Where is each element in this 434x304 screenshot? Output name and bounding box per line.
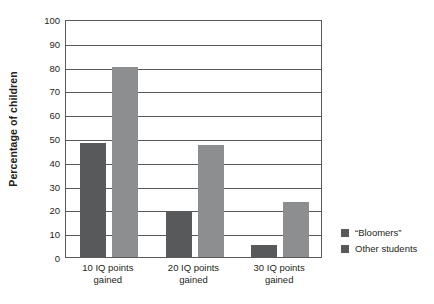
bar <box>80 143 106 257</box>
y-axis-tick-label: 20 <box>25 205 65 216</box>
bar <box>166 212 192 257</box>
y-axis-tick-label: 0 <box>25 253 65 264</box>
x-axis-tick-label: 10 IQ points gained <box>65 262 151 285</box>
legend-item-label: Other students <box>355 243 417 254</box>
y-axis-tick-label: 90 <box>25 38 65 49</box>
bar <box>198 145 224 257</box>
y-axis-tick-label: 30 <box>25 181 65 192</box>
y-axis-title-label: Percentage of children <box>7 71 19 186</box>
bar <box>283 202 309 257</box>
x-axis-tick-label: 20 IQ points gained <box>151 262 237 285</box>
bar-chart-figure: Percentage of children 01020304050607080… <box>0 0 434 304</box>
y-axis-tick-label: 100 <box>25 15 65 26</box>
legend-item-label: “Bloomers” <box>355 227 401 238</box>
gridline <box>66 92 321 93</box>
y-axis-tick-label: 50 <box>25 134 65 145</box>
bar <box>112 67 138 257</box>
x-axis-tick-label: 30 IQ points gained <box>236 262 322 285</box>
legend-swatch-other-students <box>341 245 349 253</box>
gridline <box>66 69 321 70</box>
gridline <box>66 140 321 141</box>
gridline <box>66 116 321 117</box>
y-axis-tick-label: 10 <box>25 229 65 240</box>
bar <box>251 245 277 257</box>
y-axis-tick-label: 60 <box>25 110 65 121</box>
y-axis-tick-label: 80 <box>25 62 65 73</box>
chart-legend: “Bloomers”Other students <box>341 227 417 259</box>
y-axis-title: Percentage of children <box>0 0 26 258</box>
legend-item: “Bloomers” <box>341 227 417 238</box>
legend-swatch-bloomers <box>341 229 349 237</box>
gridline <box>66 45 321 46</box>
legend-item: Other students <box>341 243 417 254</box>
plot-area <box>65 20 322 258</box>
y-axis-tick-label: 40 <box>25 157 65 168</box>
y-axis-tick-label: 70 <box>25 86 65 97</box>
